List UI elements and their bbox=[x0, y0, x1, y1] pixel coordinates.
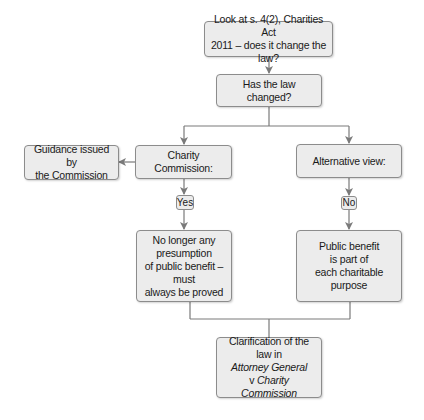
question-label: Has the law changed? bbox=[221, 78, 317, 104]
start-node: Look at s. 4(2), Charities Act 2011 – do… bbox=[204, 21, 333, 57]
public-benefit-line-2: is part of bbox=[315, 253, 383, 266]
no-tag: No bbox=[341, 196, 357, 210]
public-benefit-line-4: purpose bbox=[315, 279, 383, 292]
no-presumption-line-3: always be proved bbox=[141, 286, 227, 299]
versus-text: v bbox=[249, 374, 257, 386]
charity-commission-label: Charity Commission: bbox=[140, 149, 227, 175]
clarification-line-2: Attorney General bbox=[221, 361, 317, 374]
yes-tag: Yes bbox=[176, 195, 194, 210]
case-name-part-1: Attorney General bbox=[231, 361, 307, 373]
yes-label: Yes bbox=[177, 197, 193, 209]
clarification-line-1: Clarification of the law in bbox=[221, 335, 317, 361]
guidance-node: Guidance issued by the Commission bbox=[24, 145, 119, 180]
no-label: No bbox=[343, 197, 356, 209]
guidance-line-1: Guidance issued by bbox=[29, 143, 114, 169]
clarification-line-4: Commission bbox=[221, 387, 317, 400]
start-line-1: Look at s. 4(2), Charities Act bbox=[209, 13, 328, 39]
no-presumption-node: No longer any presumption of public bene… bbox=[136, 230, 232, 302]
case-name-part-2: Charity bbox=[257, 374, 289, 386]
clarification-line-3: v Charity bbox=[221, 374, 317, 387]
case-name-part-3: Commission bbox=[241, 387, 297, 399]
alternative-view-node: Alternative view: bbox=[296, 144, 402, 178]
charity-commission-node: Charity Commission: bbox=[135, 145, 232, 179]
public-benefit-line-3: each charitable bbox=[315, 266, 383, 279]
flowchart: Look at s. 4(2), Charities Act 2011 – do… bbox=[0, 0, 424, 420]
no-presumption-line-1: No longer any presumption bbox=[141, 234, 227, 260]
clarification-node: Clarification of the law in Attorney Gen… bbox=[216, 337, 322, 398]
alternative-view-label: Alternative view: bbox=[312, 155, 385, 168]
public-benefit-node: Public benefit is part of each charitabl… bbox=[296, 230, 402, 302]
guidance-line-2: the Commission bbox=[29, 169, 114, 182]
no-presumption-line-2: of public benefit – must bbox=[141, 260, 227, 286]
public-benefit-line-1: Public benefit bbox=[315, 240, 383, 253]
start-line-2: 2011 – does it change the law? bbox=[209, 39, 328, 65]
question-node: Has the law changed? bbox=[216, 74, 322, 107]
